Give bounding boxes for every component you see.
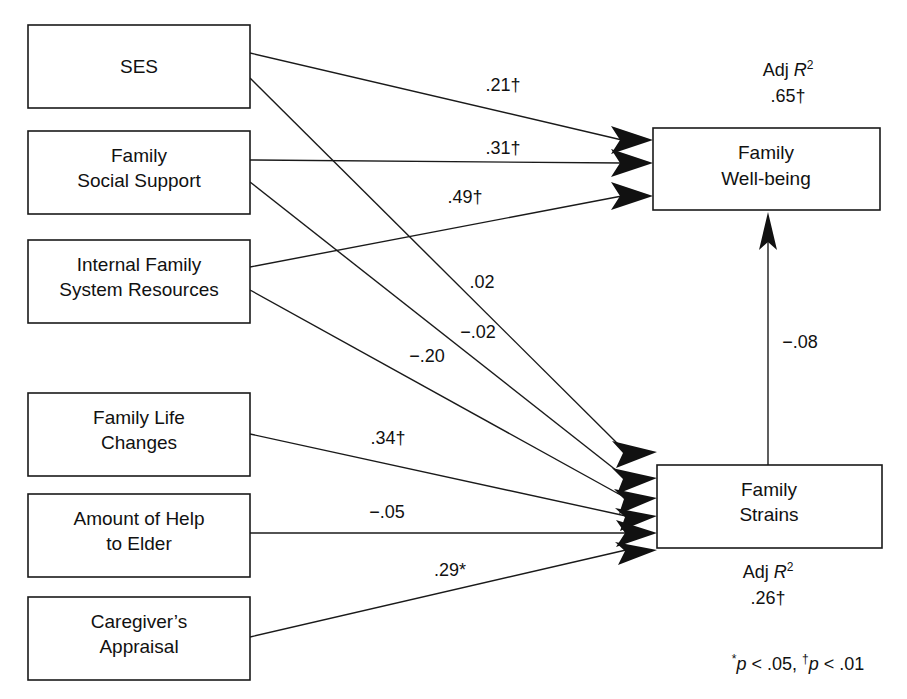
coef-label-caregivers-appraisal-to-strains: .29* bbox=[434, 560, 466, 580]
box-family-strains-label-line1: Family bbox=[741, 479, 797, 500]
r2-strains-caption-exponent: 2 bbox=[787, 560, 794, 574]
box-ses: SES bbox=[28, 25, 250, 108]
footnote-p-symbol-2: p bbox=[808, 654, 819, 674]
box-internal-family-system-resources-label-line1: Internal Family bbox=[77, 254, 202, 275]
r2-strains-caption-symbol: R bbox=[774, 562, 787, 582]
path-line-ses-to-strains bbox=[250, 78, 626, 452]
r2-wellbeing-caption: Adj R2 bbox=[763, 58, 814, 80]
path-line-social-support-to-wellbeing bbox=[250, 160, 622, 163]
footnote-first-part: < .05, bbox=[746, 654, 802, 674]
coef-label-strains-to-wellbeing: −.08 bbox=[782, 332, 818, 352]
r2-wellbeing-caption-symbol: R bbox=[794, 60, 807, 80]
r2-strains-group: Adj R2 .26† bbox=[743, 560, 794, 608]
r2-wellbeing-group: Adj R2 .65† bbox=[763, 58, 814, 106]
path-diagram-figure: SES Family Social Support Internal Famil… bbox=[0, 0, 907, 699]
box-family-social-support: Family Social Support bbox=[28, 131, 250, 214]
box-amount-of-help-to-elder-label-line2: to Elder bbox=[106, 533, 172, 554]
coef-label-ses-to-strains: .02 bbox=[469, 272, 494, 292]
path-line-ses-to-wellbeing bbox=[250, 53, 622, 140]
r2-wellbeing-caption-exponent: 2 bbox=[807, 58, 814, 72]
box-ses-label-line1: SES bbox=[120, 56, 158, 77]
footnote-p-symbol-1: p bbox=[735, 654, 746, 674]
significance-footnote: *p < .05, †p < .01 bbox=[732, 652, 864, 674]
box-family-well-being: Family Well-being bbox=[653, 128, 880, 210]
coef-label-internal-resources-to-strains: −.20 bbox=[409, 346, 445, 366]
footnote-dagger-marker: † bbox=[802, 652, 809, 666]
box-amount-of-help-to-elder: Amount of Help to Elder bbox=[28, 494, 250, 577]
box-internal-family-system-resources-label-line2: System Resources bbox=[59, 279, 218, 300]
diagram-canvas: SES Family Social Support Internal Famil… bbox=[0, 0, 907, 699]
coef-label-social-support-to-wellbeing: .31† bbox=[485, 138, 520, 158]
box-family-life-changes-label-line2: Changes bbox=[101, 432, 177, 453]
r2-strains-caption: Adj R2 bbox=[743, 560, 794, 582]
path-line-life-changes-to-strains bbox=[250, 434, 626, 516]
coef-label-ses-to-wellbeing: .21† bbox=[485, 75, 520, 95]
box-family-social-support-label-line1: Family bbox=[111, 145, 167, 166]
r2-wellbeing-caption-prefix: Adj bbox=[763, 60, 794, 80]
arrowhead-internal-resources-to-wellbeing bbox=[611, 182, 653, 210]
box-caregivers-appraisal: Caregiver’s Appraisal bbox=[28, 597, 250, 680]
box-family-social-support-label-line2: Social Support bbox=[77, 170, 201, 191]
r2-strains-value: .26† bbox=[750, 588, 785, 608]
box-caregivers-appraisal-label-line2: Appraisal bbox=[99, 636, 178, 657]
arrowhead-caregivers-appraisal-to-strains bbox=[615, 542, 657, 565]
box-amount-of-help-to-elder-label-line1: Amount of Help bbox=[74, 508, 205, 529]
path-line-internal-resources-to-strains bbox=[250, 290, 626, 498]
box-internal-family-system-resources: Internal Family System Resources bbox=[28, 240, 250, 323]
box-family-well-being-label-line2: Well-being bbox=[721, 168, 810, 189]
box-family-strains: Family Strains bbox=[657, 465, 882, 548]
box-family-strains-label-line2: Strains bbox=[739, 504, 798, 525]
coef-label-internal-resources-to-wellbeing: .49† bbox=[447, 187, 482, 207]
footnote-second-part: < .01 bbox=[819, 654, 865, 674]
arrowhead-ses-to-wellbeing bbox=[611, 126, 653, 154]
coef-label-help-to-elder-to-strains: −.05 bbox=[369, 502, 405, 522]
path-line-internal-resources-to-wellbeing bbox=[250, 196, 622, 267]
box-family-well-being-label-line1: Family bbox=[738, 142, 794, 163]
box-caregivers-appraisal-label-line1: Caregiver’s bbox=[91, 611, 187, 632]
coef-label-life-changes-to-strains: .34† bbox=[370, 428, 405, 448]
box-family-life-changes: Family Life Changes bbox=[28, 393, 250, 476]
r2-strains-caption-prefix: Adj bbox=[743, 562, 774, 582]
arrowhead-ses-to-strains bbox=[612, 441, 657, 468]
path-line-social-support-to-strains bbox=[250, 182, 626, 478]
box-family-life-changes-label-line1: Family Life bbox=[93, 407, 185, 428]
r2-wellbeing-value: .65† bbox=[770, 86, 805, 106]
coef-label-social-support-to-strains: −.02 bbox=[460, 322, 496, 342]
